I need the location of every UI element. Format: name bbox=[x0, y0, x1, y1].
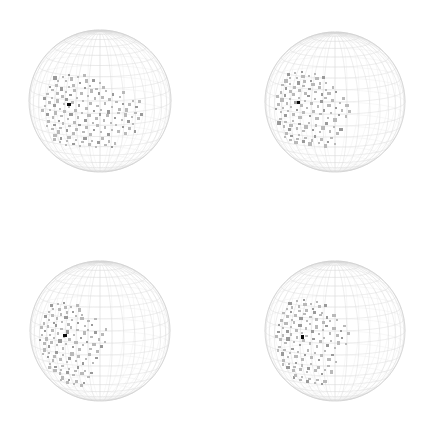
origin-marker bbox=[301, 335, 304, 338]
globe-wireframe-front bbox=[265, 261, 405, 401]
globe-panel-bottom-right[interactable] bbox=[218, 212, 436, 424]
globe-svg-bottom-right bbox=[218, 212, 436, 424]
globe-svg-top-left bbox=[0, 0, 218, 212]
globe-panel-bottom-left[interactable] bbox=[0, 212, 218, 424]
globe-wireframe-front bbox=[30, 261, 170, 401]
globe-svg-bottom-left bbox=[0, 212, 218, 424]
scatter-points bbox=[275, 71, 350, 148]
globe-wireframe-front bbox=[265, 32, 405, 172]
origin-marker bbox=[67, 103, 70, 106]
globe-panel-top-right[interactable] bbox=[218, 0, 436, 212]
globe-svg-top-right bbox=[218, 0, 436, 212]
origin-marker bbox=[63, 334, 66, 337]
globe-panel-top-left[interactable] bbox=[0, 0, 218, 212]
sphere-scatter-figure bbox=[0, 0, 436, 424]
origin-marker bbox=[297, 101, 300, 104]
